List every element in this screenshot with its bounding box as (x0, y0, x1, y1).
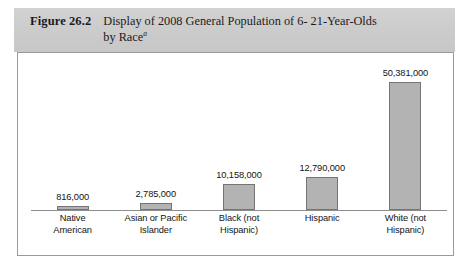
x-axis-category-label: White (notHispanic) (364, 213, 447, 236)
x-axis-category-label: Black (notHispanic) (197, 213, 280, 236)
bar-slot: 50,381,000 (364, 53, 447, 210)
figure-caption-band: Figure 26.2 Display of 2008 General Popu… (14, 8, 455, 52)
bar-slot: 10,158,000 (197, 53, 280, 210)
figure-title-line1: Display of 2008 General Population of 6-… (103, 14, 376, 28)
x-axis-category-label-line: White (not (364, 213, 447, 225)
bar-slot: 2,785,000 (114, 53, 197, 210)
x-axis-line (31, 210, 447, 211)
figure-title: Display of 2008 General Population of 6-… (103, 13, 376, 45)
figure-footnote-marker: a (143, 29, 147, 38)
x-axis-category-label-line: American (31, 225, 114, 237)
figure-number: Figure 26.2 (30, 13, 91, 29)
x-axis-category-labels: NativeAmericanAsian or PacificIslanderBl… (31, 213, 447, 255)
x-axis-category-label-line: Hispanic (281, 213, 364, 225)
bar-value-label: 50,381,000 (383, 68, 429, 78)
bar-chart: 816,0002,785,00010,158,00012,790,00050,3… (18, 53, 455, 257)
x-axis-category-label: Asian or PacificIslander (114, 213, 197, 236)
bar[interactable] (140, 203, 172, 210)
bar-slot: 12,790,000 (281, 53, 364, 210)
figure-container: Figure 26.2 Display of 2008 General Popu… (0, 0, 470, 274)
x-axis-category-label: Hispanic (281, 213, 364, 225)
x-axis-category-label-line: Black (not (197, 213, 280, 225)
x-axis-category-label: NativeAmerican (31, 213, 114, 236)
bar-value-label: 10,158,000 (216, 170, 262, 180)
x-axis-category-label-line: Hispanic) (197, 225, 280, 237)
chart-plot-frame: 816,0002,785,00010,158,00012,790,00050,3… (17, 52, 454, 256)
bar[interactable] (306, 177, 338, 210)
bar-series: 816,0002,785,00010,158,00012,790,00050,3… (31, 53, 447, 210)
bar[interactable] (389, 82, 421, 210)
bar-slot: 816,000 (31, 53, 114, 210)
x-axis-category-label-line: Hispanic) (364, 225, 447, 237)
x-axis-category-label-line: Asian or Pacific (114, 213, 197, 225)
figure-caption-text: Figure 26.2 Display of 2008 General Popu… (30, 13, 447, 45)
bar-value-label: 12,790,000 (299, 163, 345, 173)
x-axis-category-label-line: Islander (114, 225, 197, 237)
figure-title-line2: by Race (103, 30, 143, 44)
bar-value-label: 2,785,000 (136, 189, 176, 199)
x-axis-category-label-line: Native (31, 213, 114, 225)
bar-value-label: 816,000 (56, 192, 89, 202)
bar[interactable] (223, 184, 255, 210)
